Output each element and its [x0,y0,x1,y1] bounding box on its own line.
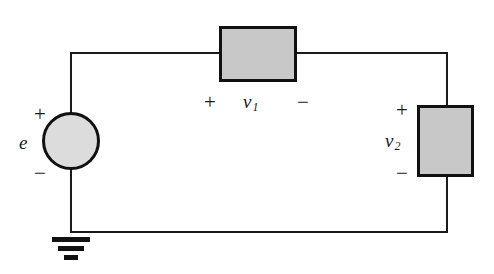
wire-right-upper [446,52,448,107]
ground-bar-middle [58,246,84,251]
ground-bar-bottom [64,255,78,260]
element-v2-plus-sign: + [396,100,408,121]
source-minus-sign: − [34,163,46,184]
element-v1-label-var: v [243,91,251,112]
element-v2-label: v2 [385,131,400,152]
source-plus-sign: + [34,104,46,125]
source-label: e [19,133,27,152]
element-v1-label: v1 [243,92,258,113]
wire-left-lower [70,168,72,233]
element-v1-plus-sign: + [204,92,216,113]
wire-right-lower [446,175,448,233]
element-v2-label-sub: 2 [394,139,400,153]
voltage-source-symbol [42,112,100,170]
element-box-v1 [219,26,297,82]
element-v1-minus-sign: − [297,92,309,113]
element-v2-label-var: v [385,130,393,151]
circuit-diagram: + e − + v1 − + v2 − [0,0,494,274]
element-v2-minus-sign: − [396,163,408,184]
element-v1-label-sub: 1 [252,100,258,114]
wire-left-upper [70,52,72,114]
ground-bar-top [52,237,90,242]
element-box-v2 [417,105,474,177]
wire-bottom [70,231,448,233]
